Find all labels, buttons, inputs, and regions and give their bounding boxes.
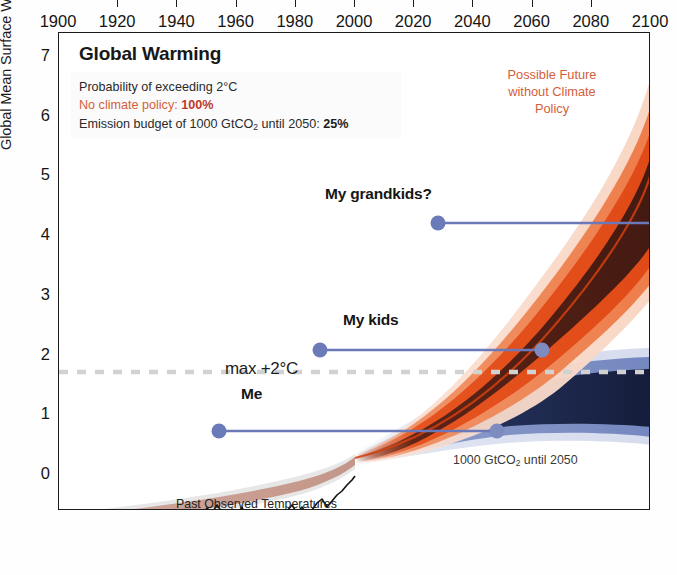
plot-area: Global Warming Probability of exceeding … [58, 32, 650, 510]
x-tick-label-2100: 2100 [620, 12, 677, 31]
legend-line-no-policy: No climate policy: 100% [79, 96, 393, 114]
y-tick-label-0: 0 [22, 465, 50, 482]
x-tick-mark-1940 [176, 0, 177, 7]
annotation-my-kids: My kids [343, 311, 398, 329]
plot-inner: Global Warming Probability of exceeding … [59, 33, 649, 509]
y-tick-label-7: 7 [22, 47, 50, 64]
annotation-budget-b: until 2050 [520, 453, 577, 467]
x-tick-mark-2080 [591, 0, 592, 7]
legend-line-probability: Probability of exceeding 2°C [79, 78, 393, 96]
annotation-me: Me [241, 385, 262, 403]
climate-chart-figure: Global Mean Surface Warming (°C) 0123456… [0, 0, 677, 575]
y-tick-label-4: 4 [22, 226, 50, 243]
x-tick-label-2060: 2060 [502, 12, 562, 31]
annotation-future-line3: Policy [477, 101, 627, 118]
legend-probability-text: Probability of exceeding 2°C [79, 80, 237, 94]
y-tick-label-5: 5 [22, 166, 50, 183]
title-block: Global Warming Probability of exceeding … [71, 37, 401, 139]
x-tick-label-1920: 1920 [87, 12, 147, 31]
x-tick-label-1960: 1960 [206, 12, 266, 31]
chart-title: Global Warming [79, 43, 401, 65]
y-axis-title: Global Mean Surface Warming (°C) [0, 0, 14, 150]
legend-budget-subscript: 2 [253, 122, 258, 132]
annotation-past-observed: Past Observed Temperatures [176, 497, 337, 509]
legend-no-policy-label: No climate policy: [79, 98, 178, 112]
x-tick-mark-2020 [413, 0, 414, 7]
x-tick-mark-2060 [532, 0, 533, 7]
annotation-future-line2: without Climate [477, 84, 627, 101]
legend-no-policy-value: 100% [181, 98, 213, 112]
legend-budget-value: 25% [323, 117, 348, 131]
x-tick-mark-2040 [472, 0, 473, 7]
y-tick-label-1: 1 [22, 405, 50, 422]
x-tick-mark-1980 [295, 0, 296, 7]
y-tick-label-3: 3 [22, 286, 50, 303]
annotation-budget-plume: 1000 GtCO2 until 2050 [453, 453, 578, 467]
annotation-max-2c: max +2°C [225, 359, 298, 379]
x-tick-label-2080: 2080 [561, 12, 621, 31]
legend-budget-label-a: Emission budget of 1000 GtCO [79, 117, 253, 131]
legend-box: Probability of exceeding 2°C No climate … [71, 72, 401, 139]
x-tick-label-1900: 1900 [28, 12, 88, 31]
x-tick-label-1940: 1940 [146, 12, 206, 31]
x-tick-mark-1920 [117, 0, 118, 7]
legend-budget-label-b: until 2050: [258, 117, 320, 131]
annotation-budget-sub: 2 [516, 458, 521, 468]
x-tick-mark-2000 [354, 0, 355, 7]
x-tick-label-2040: 2040 [442, 12, 502, 31]
annotation-future-line1: Possible Future [477, 67, 627, 84]
x-tick-mark-1960 [236, 0, 237, 7]
annotation-my-grandkids: My grandkids? [325, 185, 432, 203]
x-tick-label-1980: 1980 [265, 12, 325, 31]
legend-line-budget: Emission budget of 1000 GtCO2 until 2050… [79, 115, 393, 133]
annotation-future-no-policy: Possible Future without Climate Policy [477, 67, 627, 118]
annotation-budget-a: 1000 GtCO [453, 453, 516, 467]
x-tick-label-2000: 2000 [324, 12, 384, 31]
y-tick-label-2: 2 [22, 346, 50, 363]
source-credit: Source: Adapted from Meinshausen et al. … [648, 405, 649, 509]
x-tick-label-2020: 2020 [383, 12, 443, 31]
y-tick-label-6: 6 [22, 107, 50, 124]
